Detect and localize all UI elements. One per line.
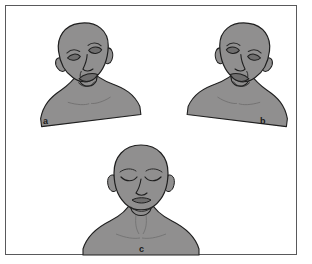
figure-label-b: b [260,117,266,126]
figure-b [178,18,308,130]
figure-a [20,18,150,130]
mouth [132,198,151,203]
figure-c-illustration [66,139,216,259]
figure-label-a: a [43,117,48,126]
figure-a-illustration [20,18,150,130]
figure-c [66,139,216,259]
figure-b-illustration [178,18,308,130]
figure-label-c: c [139,245,144,254]
figure-panel: a b c [0,0,312,264]
panel-border: a b c [5,5,297,255]
